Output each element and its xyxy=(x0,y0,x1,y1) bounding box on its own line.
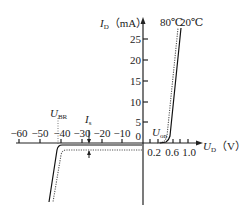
forward-curves xyxy=(157,28,181,143)
y-tick-10: 10 xyxy=(130,96,142,108)
diode-iv-chart: 25 20 15 10 5 0 −60 −50 −40 −30 −20 −10 … xyxy=(0,0,245,213)
x-tick-m30: −30 xyxy=(73,127,91,139)
x-tick-m40: −40 xyxy=(53,127,71,139)
x-tick-0-2: 0.2 xyxy=(147,146,161,158)
curve-20c-forward xyxy=(160,28,181,143)
is-label: Is xyxy=(84,113,92,127)
x-tick-m20: −20 xyxy=(93,127,111,139)
x-tick-m60: −60 xyxy=(10,127,28,139)
x-tick-m10: −10 xyxy=(113,127,131,139)
y-axis-title: ID（mA） xyxy=(99,17,147,31)
y-tick-25: 25 xyxy=(130,33,142,45)
axes xyxy=(16,17,203,205)
y-ticks xyxy=(143,39,148,122)
y-tick-20: 20 xyxy=(130,54,142,66)
y-tick-15: 15 xyxy=(130,75,142,87)
x-axis-arrow-icon xyxy=(196,141,203,146)
ubr-label: UBR xyxy=(50,107,68,121)
x-axis-title: UD（V） xyxy=(203,140,245,154)
x-tick-1-0: 1.0 xyxy=(182,146,196,158)
y-tick-5: 5 xyxy=(136,116,142,128)
uon-label: Uon xyxy=(152,126,167,140)
y-tick-labels: 25 20 15 10 5 0 xyxy=(130,33,142,142)
reverse-curves xyxy=(49,145,142,202)
y-tick-0: 0 xyxy=(136,130,142,142)
x-tick-m50: −50 xyxy=(31,127,49,139)
curve-20c-reverse xyxy=(49,145,142,202)
curve-80c-reverse xyxy=(53,150,142,202)
is-arrow-up-icon xyxy=(87,151,91,156)
legend-20c: 20℃ xyxy=(180,16,203,28)
x-tick-0-6: 0.6 xyxy=(165,146,179,158)
